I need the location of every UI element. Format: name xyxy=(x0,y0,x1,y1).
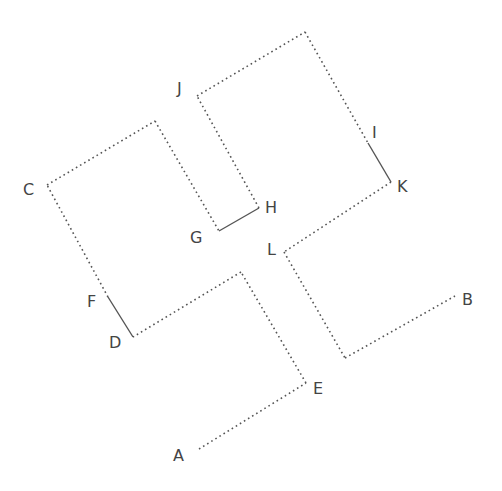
segment-g-h xyxy=(219,208,259,231)
labels-group: ABCDEFGHIJKL xyxy=(23,79,473,465)
point-label-a: A xyxy=(173,446,184,465)
point-label-e: E xyxy=(313,379,323,398)
point-label-k: K xyxy=(397,177,408,196)
segment-c-p2 xyxy=(47,121,155,185)
diagram-svg: ABCDEFGHIJKL xyxy=(0,0,502,491)
segment-e-p1 xyxy=(241,272,306,383)
segment-l-p4 xyxy=(284,252,345,358)
segment-p4-b xyxy=(345,296,455,358)
segments-group xyxy=(47,32,455,449)
path-diagram: ABCDEFGHIJKL xyxy=(0,0,502,491)
point-label-h: H xyxy=(265,198,277,217)
point-label-b: B xyxy=(462,290,473,309)
segment-p3-i xyxy=(305,32,368,143)
point-label-g: G xyxy=(190,228,202,247)
segment-f-c xyxy=(47,185,108,297)
point-label-f: F xyxy=(87,292,96,311)
segment-k-l xyxy=(284,182,391,252)
segment-d-f xyxy=(108,297,133,337)
segment-a-e xyxy=(199,383,306,449)
point-label-d: D xyxy=(109,333,121,352)
segment-h-j xyxy=(197,96,259,208)
point-label-l: L xyxy=(267,240,276,259)
point-label-c: C xyxy=(23,180,34,199)
point-label-j: J xyxy=(176,79,182,98)
segment-p1-d xyxy=(133,272,241,337)
segment-i-k xyxy=(368,143,391,182)
segment-p2-g xyxy=(155,121,219,231)
segment-j-p3 xyxy=(197,32,305,96)
point-label-i: I xyxy=(372,123,377,142)
